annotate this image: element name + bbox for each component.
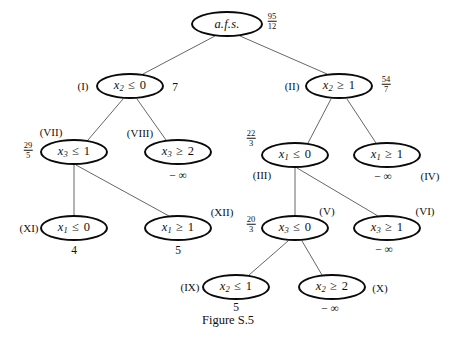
node-label: x1 ≤ 0 xyxy=(58,221,90,235)
tree-node-n5[interactable]: x3 ≤ 0 xyxy=(261,215,329,241)
node-label: x1 ≥ 1 xyxy=(371,148,403,162)
node-label: x3 ≥ 1 xyxy=(371,221,403,235)
node-label: x2 ≤ 1 xyxy=(220,280,252,294)
node-bound-value: − ∞ xyxy=(374,170,392,182)
fraction-denominator: 12 xyxy=(268,20,277,30)
fraction-denominator: 5 xyxy=(24,149,33,159)
node-bound-value: − ∞ xyxy=(375,243,393,255)
node-bound-fraction: 295 xyxy=(24,141,33,160)
tree-node-n12[interactable]: x1 ≥ 1 xyxy=(144,215,212,241)
node-roman-numeral: (VII) xyxy=(40,126,63,138)
node-bound-value: − ∞ xyxy=(169,169,187,181)
tree-edge xyxy=(308,99,331,143)
tree-edge xyxy=(88,99,123,140)
tree-edge xyxy=(240,36,327,74)
node-roman-numeral: (I) xyxy=(78,80,89,92)
tree-node-n7[interactable]: x3 ≤ 1 xyxy=(40,139,108,165)
node-label: x3 ≥ 2 xyxy=(162,145,194,159)
fraction-numerator: 54 xyxy=(382,74,391,84)
tree-node-n10[interactable]: x2 ≥ 2 xyxy=(298,274,366,300)
node-label: x1 ≥ 1 xyxy=(162,221,194,235)
node-roman-numeral: (III) xyxy=(253,169,271,181)
node-roman-numeral: (XI) xyxy=(20,222,39,234)
tree-edge xyxy=(297,168,378,216)
fraction-numerator: 29 xyxy=(24,140,33,150)
fraction-numerator: 95 xyxy=(268,11,277,21)
tree-node-root[interactable]: a.f.s. xyxy=(191,11,263,37)
tree-edge xyxy=(302,241,322,275)
node-bound-fraction: 9512 xyxy=(268,12,277,31)
branch-and-bound-tree-figure: a.f.s.9512x2 ≤ 0(I)7x2 ≥ 1(II)547x3 ≤ 1(… xyxy=(0,0,456,340)
tree-node-n4[interactable]: x1 ≥ 1 xyxy=(353,142,421,168)
fraction-denominator: 3 xyxy=(247,137,256,147)
node-bound-value: 7 xyxy=(172,81,178,93)
node-bound-value: 5 xyxy=(175,244,181,256)
node-roman-numeral: (VIII) xyxy=(127,127,153,139)
node-roman-numeral: (X) xyxy=(372,282,387,294)
tree-edge xyxy=(143,36,215,74)
tree-edge xyxy=(347,99,376,143)
node-label: a.f.s. xyxy=(214,18,239,31)
node-bound-fraction: 223 xyxy=(247,129,256,148)
tree-edge xyxy=(76,165,169,216)
tree-node-n9[interactable]: x2 ≤ 1 xyxy=(202,274,270,300)
tree-node-n8[interactable]: x3 ≥ 2 xyxy=(144,139,212,165)
node-roman-numeral: (VI) xyxy=(416,205,435,217)
node-label: x2 ≥ 2 xyxy=(316,280,348,294)
tree-node-n2[interactable]: x2 ≥ 1 xyxy=(305,73,373,99)
node-bound-value: 4 xyxy=(71,244,77,256)
tree-node-n1[interactable]: x2 ≤ 0 xyxy=(96,73,164,99)
figure-caption: Figure S.5 xyxy=(0,313,456,328)
tree-edge xyxy=(249,241,288,275)
node-roman-numeral: (IV) xyxy=(421,170,440,182)
fraction-denominator: 7 xyxy=(382,83,391,93)
node-bound-fraction: 203 xyxy=(247,215,256,234)
node-label: x2 ≤ 0 xyxy=(114,79,146,93)
node-roman-numeral: (V) xyxy=(319,205,334,217)
node-label: x3 ≤ 1 xyxy=(58,145,90,159)
fraction-numerator: 20 xyxy=(247,214,256,224)
node-bound-value: 5 xyxy=(233,301,239,313)
node-roman-numeral: (XII) xyxy=(211,206,234,218)
node-roman-numeral: (II) xyxy=(285,80,300,92)
tree-node-n11[interactable]: x1 ≤ 0 xyxy=(40,215,108,241)
fraction-numerator: 22 xyxy=(247,128,256,138)
node-label: x2 ≥ 1 xyxy=(323,79,355,93)
tree-node-n3[interactable]: x1 ≤ 0 xyxy=(261,142,329,168)
node-label: x3 ≤ 0 xyxy=(279,221,311,235)
tree-node-n6[interactable]: x3 ≥ 1 xyxy=(353,215,421,241)
node-bound-fraction: 547 xyxy=(382,75,391,94)
node-roman-numeral: (IX) xyxy=(181,281,200,293)
node-label: x1 ≤ 0 xyxy=(279,148,311,162)
fraction-denominator: 3 xyxy=(247,223,256,233)
